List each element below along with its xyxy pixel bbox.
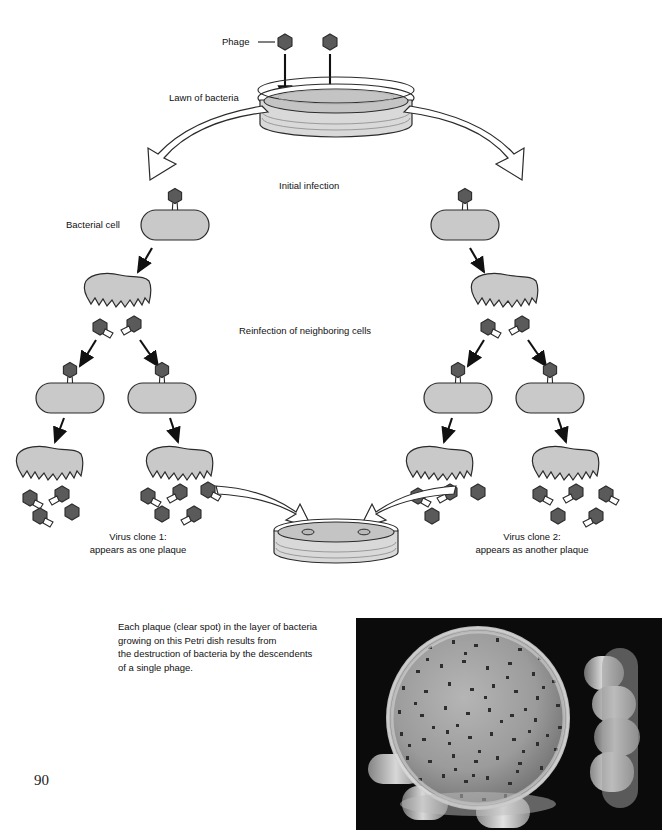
phage-particle-top-right xyxy=(323,34,337,50)
plaque-spot-1 xyxy=(302,529,314,535)
arrow-left-split-a xyxy=(80,340,96,366)
arrow-right-gen2b-to-lysis xyxy=(558,418,566,442)
petri-dish-plaques-photograph xyxy=(356,618,662,830)
lysed-cell-right-gen3-a xyxy=(406,446,485,524)
petri-dish-bottom xyxy=(274,519,398,563)
label-lawn-of-bacteria: Lawn of bacteria xyxy=(169,92,239,104)
label-bacterial-cell: Bacterial cell xyxy=(66,219,120,231)
big-arrow-right xyxy=(404,106,524,180)
label-virus-clone-2-line2: appears as another plaque xyxy=(432,544,632,556)
arrow-right-split-a xyxy=(468,340,484,366)
bacterium-right-gen2-a xyxy=(424,363,492,414)
figure-caption: Each plaque (clear spot) in the layer of… xyxy=(118,620,358,674)
page-number: 90 xyxy=(34,772,49,789)
arrow-left-gen2b-to-lysis xyxy=(170,418,178,442)
textbook-page: Phage Lawn of bacteria Initial infection… xyxy=(0,0,672,836)
bacterium-left-gen1 xyxy=(141,189,209,241)
plaque-spot-2 xyxy=(358,529,370,535)
phage-particle-top-left xyxy=(278,34,292,50)
arrow-left-gen1-to-lysis xyxy=(138,248,152,272)
label-virus-clone-1-line2: appears as one plaque xyxy=(48,544,228,556)
arrow-left-split-b xyxy=(140,340,158,366)
arrow-left-gen2a-to-lysis xyxy=(55,418,64,442)
lysed-cell-right-gen1 xyxy=(471,273,538,338)
bacterium-right-gen1 xyxy=(431,189,499,241)
arrow-right-gen1-to-lysis xyxy=(470,248,484,272)
arrow-right-gen2a-to-lysis xyxy=(444,418,452,442)
bacterium-left-gen2-b xyxy=(128,363,196,414)
label-virus-clone-2-line1: Virus clone 2: xyxy=(432,531,632,543)
bacterium-left-gen2-a xyxy=(36,363,104,414)
lysed-cell-left-gen3-b xyxy=(141,446,221,525)
caption-line-3: the destruction of bacteria by the desce… xyxy=(118,647,358,661)
label-phage: Phage xyxy=(222,36,249,48)
petri-dish-top xyxy=(258,77,414,137)
label-reinfection: Reinfection of neighboring cells xyxy=(239,325,371,337)
lysed-cell-left-gen3-a xyxy=(16,446,83,527)
label-initial-infection: Initial infection xyxy=(279,180,339,192)
lysed-cell-left-gen1 xyxy=(84,273,151,338)
bacterium-right-gen2-b xyxy=(516,363,584,414)
phage-life-cycle-diagram xyxy=(0,0,672,600)
lysed-cell-right-gen3-b xyxy=(532,446,619,527)
caption-line-2: growing on this Petri dish results from xyxy=(118,634,358,648)
label-virus-clone-1-line1: Virus clone 1: xyxy=(48,531,228,543)
caption-line-1: Each plaque (clear spot) in the layer of… xyxy=(118,620,358,634)
big-arrow-left xyxy=(148,106,268,180)
arrow-right-split-b xyxy=(528,340,546,366)
caption-line-4: of a single phage. xyxy=(118,661,358,675)
